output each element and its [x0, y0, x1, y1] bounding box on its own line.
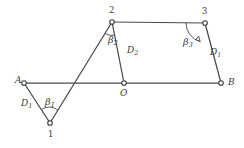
edge-label-subscript: 1: [28, 102, 32, 110]
label-point-1: 1: [48, 130, 53, 139]
label-point-B: B: [228, 78, 235, 87]
label-edge-D1-right: D1: [210, 48, 221, 59]
label-angle-beta2: β2: [108, 35, 118, 47]
label-angle-beta1: β1: [45, 97, 55, 109]
node-B[interactable]: [219, 81, 224, 86]
edge-label-subscript: 2: [134, 49, 138, 57]
label-angle-beta3: β3: [183, 37, 193, 49]
label-point-2: 2: [109, 6, 114, 15]
node-O[interactable]: [122, 81, 127, 86]
angle-label-subscript: 2: [114, 39, 118, 47]
edge-label-subscript: 1: [217, 51, 221, 59]
node-1[interactable]: [48, 121, 53, 126]
label-edge-D1-left: D1: [21, 99, 32, 110]
angle-label-subscript: 3: [189, 41, 193, 49]
node-A[interactable]: [22, 81, 27, 86]
edge-2-O: [112, 22, 124, 83]
edge-2-3: [112, 22, 205, 23]
node-3[interactable]: [203, 21, 208, 26]
node-2[interactable]: [110, 20, 115, 25]
label-edge-D2: D2: [127, 46, 138, 57]
geometry-diagram: [0, 0, 244, 148]
label-point-O: O: [120, 89, 127, 98]
figure-canvas: A B O 1 2 3 D1 D2 D1 β1 β2 β3: [0, 0, 244, 148]
label-point-3: 3: [202, 7, 207, 16]
edge-1-2: [50, 22, 112, 123]
angle-label-subscript: 1: [51, 101, 55, 109]
label-point-A: A: [15, 76, 22, 85]
